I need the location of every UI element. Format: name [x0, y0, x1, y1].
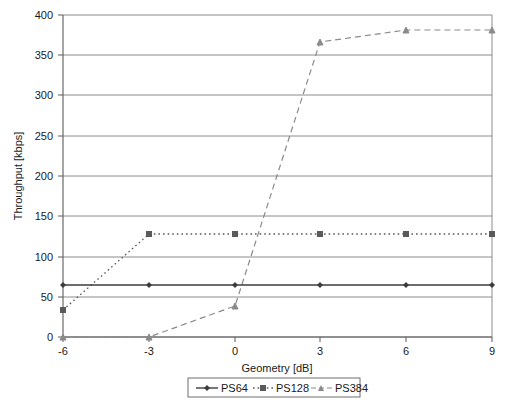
legend-label-ps64: PS64 [221, 382, 248, 394]
y-tick-label-250: 250 [35, 130, 53, 142]
y-tick-label-0: 0 [47, 331, 53, 343]
throughput-line-chart: 400 350 300 250 200 150 100 50 0 -6 -3 0… [0, 0, 509, 410]
x-tick-label-6: 6 [403, 345, 409, 357]
marker-ps128-x-3 [317, 231, 323, 237]
y-tick-label-400: 400 [35, 9, 53, 21]
y-tick-label-150: 150 [35, 210, 53, 222]
legend-label-ps384: PS384 [335, 382, 368, 394]
x-axis-title: Geometry [dB] [242, 362, 313, 374]
legend-label-ps128: PS128 [276, 382, 309, 394]
y-tick-label-100: 100 [35, 251, 53, 263]
chart-figure: 400 350 300 250 200 150 100 50 0 -6 -3 0… [0, 0, 509, 410]
marker-ps128-x-6 [403, 231, 409, 237]
marker-ps128-x-9 [489, 231, 495, 237]
x-tick-label-0: 0 [232, 345, 238, 357]
marker-ps128-x-minus3 [146, 231, 152, 237]
x-tick-label-9: 9 [489, 345, 495, 357]
y-tick-label-50: 50 [41, 291, 53, 303]
x-tick-label-3: 3 [317, 345, 323, 357]
y-tick-label-300: 300 [35, 89, 53, 101]
marker-ps128-x-0 [232, 231, 238, 237]
legend-marker-ps128-square-icon [260, 385, 266, 391]
chart-background [0, 0, 509, 410]
marker-ps128-x-minus6 [60, 307, 66, 313]
x-tick-label-minus3: -3 [144, 345, 154, 357]
y-tick-label-350: 350 [35, 49, 53, 61]
y-tick-label-200: 200 [35, 170, 53, 182]
y-axis-title: Throughput [kbps] [12, 132, 24, 221]
x-tick-label-minus6: -6 [58, 345, 68, 357]
